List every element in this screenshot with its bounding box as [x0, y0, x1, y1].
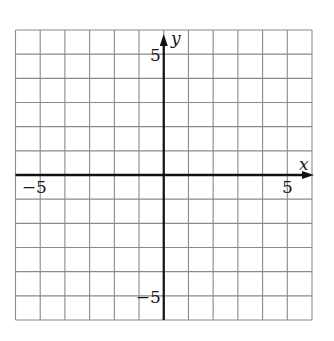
coordinate-plane: x y −555−5	[0, 0, 334, 341]
y-tick-label: −5	[136, 287, 161, 307]
x-axis-label: x	[299, 154, 309, 174]
y-axis-arrow-icon	[160, 34, 168, 46]
y-tick-label: 5	[150, 45, 161, 65]
x-tick-label: 5	[282, 177, 293, 197]
y-axis-label: y	[170, 28, 181, 48]
x-tick-label: −5	[22, 177, 47, 197]
axes	[16, 34, 315, 320]
